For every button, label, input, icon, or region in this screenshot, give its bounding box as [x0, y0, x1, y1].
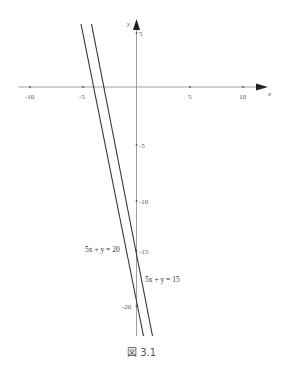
y-tick-label: -10: [139, 198, 149, 206]
x-tick-label: -5: [79, 93, 85, 101]
x-tick-label: 10: [239, 93, 247, 101]
x-axis-arrow-icon: [256, 84, 268, 91]
line-label-right: 5x + y = 15: [145, 275, 180, 284]
x-tick-label: -10: [25, 93, 35, 101]
x-axis-label: x: [267, 90, 272, 98]
line-label-left: 5x + y = 20: [85, 245, 120, 254]
line-5x-y-15: [81, 24, 144, 336]
y-axis-label: y: [126, 20, 131, 28]
x-tick-label: 5: [188, 93, 192, 101]
graph-canvas: x y -10 -5 5 10 5 -5 -10 -15 -20 5x + y …: [0, 0, 283, 376]
y-tick-label: -5: [139, 142, 145, 150]
y-tick-label: -15: [139, 248, 149, 256]
y-tick-label: 5: [139, 30, 143, 38]
figure-caption: 図 3.1: [0, 344, 283, 359]
y-axis-arrow-icon: [133, 19, 140, 30]
y-tick-label: -20: [122, 303, 132, 311]
line-5x-y-20: [92, 24, 153, 336]
